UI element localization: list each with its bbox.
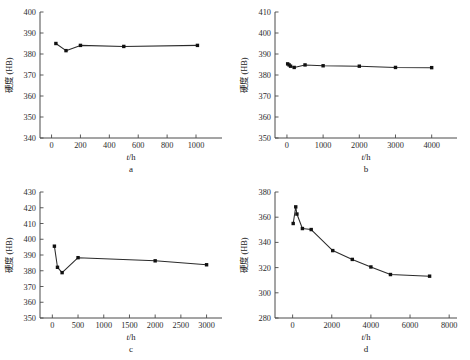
svg-text:a: a	[129, 164, 133, 174]
svg-text:380: 380	[259, 71, 271, 80]
svg-text:600: 600	[132, 141, 144, 150]
svg-text:410: 410	[24, 220, 36, 229]
svg-text:400: 400	[103, 141, 115, 150]
svg-text:360: 360	[24, 298, 36, 307]
svg-text:350: 350	[259, 134, 271, 143]
svg-text:380: 380	[24, 50, 36, 59]
svg-text:400: 400	[24, 235, 36, 244]
svg-text:t/h: t/h	[361, 152, 371, 162]
svg-text:t/h: t/h	[361, 332, 371, 342]
panel-a: 34035036037038039040002004006008001000t/…	[0, 0, 235, 180]
svg-text:t/h: t/h	[126, 152, 136, 162]
svg-text:t/h: t/h	[126, 332, 136, 342]
svg-text:340: 340	[259, 238, 271, 247]
svg-text:370: 370	[24, 283, 36, 292]
svg-text:c: c	[129, 344, 133, 354]
svg-text:b: b	[364, 164, 369, 174]
svg-text:200: 200	[74, 141, 86, 150]
svg-text:2000: 2000	[351, 141, 368, 150]
svg-text:340: 340	[24, 134, 36, 143]
svg-text:410: 410	[259, 8, 271, 17]
svg-text:1000: 1000	[95, 321, 112, 330]
svg-text:320: 320	[259, 264, 271, 273]
svg-text:350: 350	[24, 113, 36, 122]
panel-a-plot: 34035036037038039040002004006008001000t/…	[0, 0, 235, 180]
panel-d: 28030032034036038002000400060008000t/hd硬…	[235, 180, 470, 360]
svg-text:硬度 (HB): 硬度 (HB)	[4, 57, 14, 93]
svg-text:380: 380	[259, 188, 271, 197]
svg-text:360: 360	[259, 213, 271, 222]
svg-text:350: 350	[24, 314, 36, 323]
svg-text:2500: 2500	[173, 321, 190, 330]
svg-text:390: 390	[24, 251, 36, 260]
svg-text:420: 420	[24, 204, 36, 213]
panel-c-plot: 3503603703803904004104204300500100015002…	[0, 180, 235, 360]
svg-text:390: 390	[259, 50, 271, 59]
svg-text:400: 400	[24, 8, 36, 17]
svg-text:360: 360	[259, 113, 271, 122]
panel-b-plot: 35036037038039040041001000200030004000t/…	[235, 0, 470, 180]
svg-text:500: 500	[72, 321, 84, 330]
svg-text:硬度 (HB): 硬度 (HB)	[239, 237, 249, 273]
panel-d-plot: 28030032034036038002000400060008000t/hd硬…	[235, 180, 470, 360]
svg-text:0: 0	[285, 141, 289, 150]
svg-text:2000: 2000	[323, 321, 340, 330]
svg-text:370: 370	[259, 92, 271, 101]
svg-text:800: 800	[161, 141, 173, 150]
svg-text:360: 360	[24, 92, 36, 101]
svg-text:390: 390	[24, 29, 36, 38]
svg-text:3000: 3000	[387, 141, 404, 150]
svg-text:0: 0	[50, 321, 54, 330]
figure-four-panel-hardness: 34035036037038039040002004006008001000t/…	[0, 0, 470, 360]
svg-text:8000: 8000	[441, 321, 458, 330]
svg-text:6000: 6000	[402, 321, 419, 330]
svg-text:0: 0	[291, 321, 295, 330]
svg-text:370: 370	[24, 71, 36, 80]
svg-text:430: 430	[24, 188, 36, 197]
svg-text:2000: 2000	[147, 321, 164, 330]
svg-text:4000: 4000	[363, 321, 380, 330]
svg-text:280: 280	[259, 314, 271, 323]
svg-text:1000: 1000	[315, 141, 332, 150]
svg-text:硬度 (HB): 硬度 (HB)	[239, 57, 249, 93]
svg-text:4000: 4000	[423, 141, 440, 150]
svg-text:d: d	[364, 344, 369, 354]
svg-text:400: 400	[259, 29, 271, 38]
svg-text:0: 0	[49, 141, 53, 150]
panel-c: 3503603703803904004104204300500100015002…	[0, 180, 235, 360]
svg-text:1000: 1000	[188, 141, 205, 150]
svg-text:3000: 3000	[198, 321, 215, 330]
svg-text:硬度 (HB): 硬度 (HB)	[4, 237, 14, 273]
panel-b: 35036037038039040041001000200030004000t/…	[235, 0, 470, 180]
svg-text:300: 300	[259, 289, 271, 298]
svg-text:380: 380	[24, 267, 36, 276]
svg-text:1500: 1500	[121, 321, 138, 330]
